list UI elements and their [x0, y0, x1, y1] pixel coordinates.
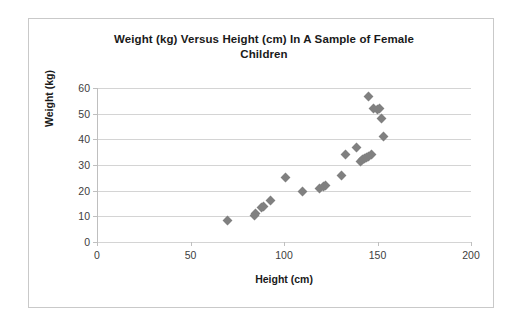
y-tick-label: 60: [78, 82, 90, 94]
y-tick-label: 50: [78, 108, 90, 120]
data-point: [376, 114, 386, 124]
x-tick-label: 200: [462, 249, 480, 261]
data-point: [298, 187, 308, 197]
data-point: [363, 92, 373, 102]
x-tick-mark: [378, 242, 379, 246]
y-tick-label: 40: [78, 133, 90, 145]
y-tick-mark: [93, 114, 97, 115]
gridline-y: [97, 216, 471, 217]
x-tick-mark: [97, 242, 98, 246]
y-tick-mark: [93, 216, 97, 217]
x-tick-label: 50: [185, 249, 197, 261]
chart-title-line-1: Weight (kg) Versus Height (cm) In A Samp…: [114, 33, 414, 45]
gridline-y: [97, 114, 471, 115]
x-tick-mark: [471, 242, 472, 246]
plot-area: 0102030405060 050100150200: [97, 88, 471, 242]
data-point: [352, 142, 362, 152]
y-axis-line: [97, 88, 98, 242]
gridline-y: [97, 139, 471, 140]
y-axis-title: Weight (kg): [43, 70, 55, 127]
x-tick-mark: [284, 242, 285, 246]
y-tick-label: 20: [78, 185, 90, 197]
x-tick-mark: [191, 242, 192, 246]
x-tick-label: 100: [275, 249, 293, 261]
data-point: [266, 196, 276, 206]
data-point: [341, 150, 351, 160]
y-tick-mark: [93, 191, 97, 192]
chart-frame: Weight (kg) Versus Height (cm) In A Samp…: [28, 18, 494, 308]
y-tick-label: 10: [78, 210, 90, 222]
data-point: [281, 173, 291, 183]
y-tick-label: 0: [84, 236, 90, 248]
gridline-y: [97, 165, 471, 166]
x-tick-label: 0: [94, 249, 100, 261]
data-point: [337, 170, 347, 180]
x-tick-label: 150: [369, 249, 387, 261]
chart-title-line-2: Children: [240, 48, 287, 60]
x-axis-title: Height (cm): [97, 273, 471, 285]
y-tick-mark: [93, 165, 97, 166]
gridline-y: [97, 191, 471, 192]
y-tick-mark: [93, 139, 97, 140]
gridline-y: [97, 88, 471, 89]
y-tick-mark: [93, 88, 97, 89]
y-tick-label: 30: [78, 159, 90, 171]
chart-title: Weight (kg) Versus Height (cm) In A Samp…: [69, 32, 459, 62]
